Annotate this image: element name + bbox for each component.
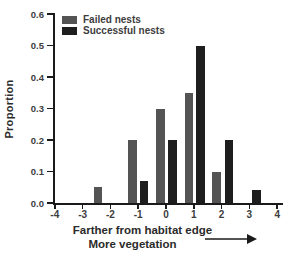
y-tick-label: 0.4: [18, 73, 44, 82]
bar-successful: [168, 140, 177, 203]
y-tick-label: 0.0: [18, 199, 44, 208]
y-tick-label: 0.2: [18, 136, 44, 145]
bar-successful: [252, 190, 261, 203]
legend-item-failed: Failed nests: [62, 15, 141, 24]
y-axis-line: [53, 13, 55, 204]
x-tick-label: -4: [43, 210, 67, 220]
y-tick-label: 0.5: [18, 41, 44, 50]
y-tick: [47, 45, 53, 47]
legend-label-successful: Successful nests: [83, 26, 165, 35]
bar-chart-figure: Proportion 0.00.10.20.30.40.50.6 -4-3-2-…: [0, 0, 299, 260]
bar-successful: [140, 181, 149, 203]
right-arrow-icon: [205, 232, 257, 246]
x-axis-caption-line2: More vegetation: [60, 238, 205, 250]
y-tick: [47, 13, 53, 15]
y-tick: [47, 202, 53, 204]
bar-successful: [225, 140, 234, 203]
x-tick-label: -1: [126, 210, 150, 220]
bar-failed: [128, 140, 137, 203]
x-tick-label: 0: [154, 210, 178, 220]
legend-item-successful: Successful nests: [62, 26, 165, 35]
failed-nests-swatch: [62, 16, 77, 24]
y-tick-label: 0.6: [18, 10, 44, 19]
bar-failed: [212, 172, 221, 204]
x-tick-label: -2: [98, 210, 122, 220]
bar-failed: [94, 187, 103, 203]
bar-successful: [196, 46, 205, 204]
x-tick-label: -3: [71, 210, 95, 220]
x-tick-label: 3: [237, 210, 261, 220]
y-tick-label: 0.3: [18, 104, 44, 113]
x-axis-caption-line1: Farther from habitat edge: [60, 224, 225, 236]
x-tick-label: 1: [182, 210, 206, 220]
x-tick-label: 4: [265, 210, 289, 220]
y-tick: [47, 171, 53, 173]
x-tick-label: 2: [210, 210, 234, 220]
y-axis-title: Proportion: [3, 59, 15, 159]
y-tick: [47, 76, 53, 78]
bar-failed: [185, 93, 194, 203]
y-tick: [47, 139, 53, 141]
legend-label-failed: Failed nests: [83, 15, 141, 24]
y-tick-label: 0.1: [18, 167, 44, 176]
bar-failed: [156, 109, 165, 204]
successful-nests-swatch: [62, 27, 77, 35]
y-tick: [47, 108, 53, 110]
